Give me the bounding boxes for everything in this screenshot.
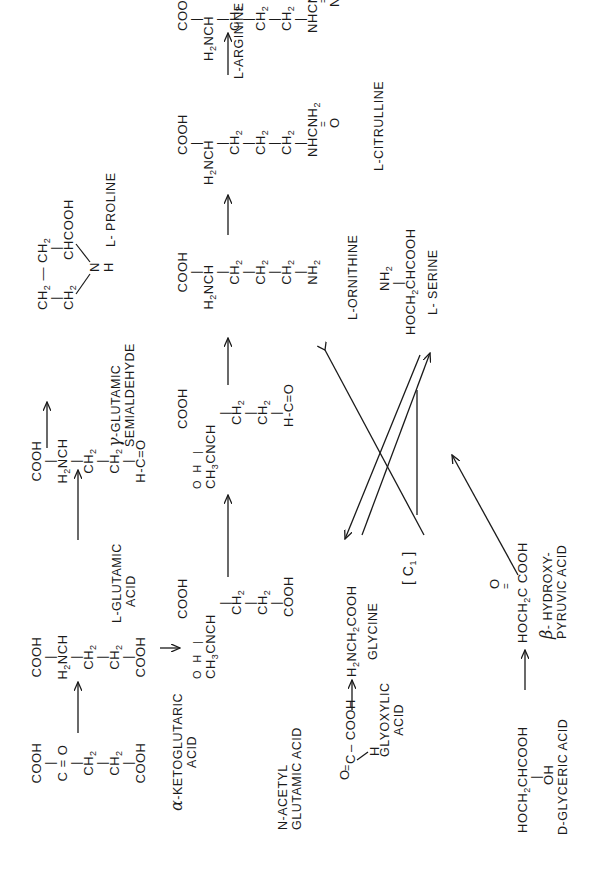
arrow-glycine-to-serine [340, 353, 426, 531]
compound-glyoxylic-acid: O = C – COOH H [338, 700, 378, 780]
label-glycine: GLYCINE [366, 603, 380, 660]
label-d-glyceric-acid: D-GLYCERIC ACID [556, 719, 570, 835]
label-l-glutamic-acid: L-GLUTAMIC ACID [110, 553, 138, 623]
label-l-serine: L- SERINE [426, 249, 440, 315]
c1-unit: [ C1 ] [400, 551, 416, 585]
pathway-diagram: COOH | C = O | CH2 | CH2 | COOH α-KETOGL… [0, 0, 600, 875]
label-l-citrulline: L-CITRULLINE [372, 81, 386, 171]
label-alpha-ketoglutaric: α-KETOGLUTARIC ACID [170, 667, 199, 837]
label-l-arginine: L-ARGININE [232, 2, 246, 79]
label-n-acetyl-glutamic-acid: N-ACETYL GLUTAMIC ACID [276, 727, 304, 830]
arrow-serine-glycine-back [345, 355, 420, 539]
arrow-glycine-serine-forward [362, 353, 430, 535]
arrow-serine-to-glycine [325, 350, 424, 535]
label-glyoxylic-acid: GLYOXYLIC ACID [378, 683, 406, 757]
compound-l-ornithine: COOH | H2NCH | CH2 | CH2 | CH2 | NH2 [176, 247, 320, 327]
compound-alpha-ketoglutaric: COOH | C = O | CH2 | CH2 | COOH [30, 743, 148, 783]
compound-l-arginine: COOH | H2NCH | CH2 | CH2 | CH2 | NHCNH2 … [176, 0, 342, 61]
compound-l-glutamic-acid: COOH | H2NCH | CH2 | CH2 | COOH [30, 635, 148, 679]
label-gamma-glutamic-semialdehyde: γ-GLUTAMIC SEMIALDEHYDE [108, 337, 137, 447]
label-l-ornithine: L-ORNITHINE [346, 235, 360, 320]
compound-glycine: H2NCH2COOH [344, 585, 359, 677]
arrow-hydroxypyruvate-to-serine [452, 455, 518, 575]
label-beta-hydroxypyruvic-acid: β- HYDROXY- PYRUVIC ACID [540, 545, 569, 639]
label-l-proline: L- PROLINE [104, 173, 118, 247]
compound-l-citrulline: COOH | H2NCH | CH2 | CH2 | CH2 | NHCNH2 … [176, 85, 342, 185]
